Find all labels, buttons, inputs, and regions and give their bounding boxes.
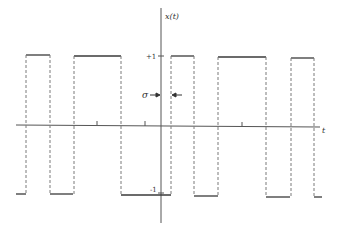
arrow-left-icon [172, 93, 176, 97]
amplitude-axis-label: x(t) [165, 12, 179, 21]
high-level-label: +1 [146, 53, 156, 61]
arrow-right-icon [156, 93, 160, 97]
offset-label: σ [142, 90, 149, 100]
low-level-label: -1 [150, 186, 157, 194]
time-axis-label: t [322, 126, 326, 135]
offset-arrows [150, 93, 182, 97]
waveform-figure: t x(t) +1 -1 σ [0, 0, 342, 232]
time-axis [16, 125, 320, 127]
